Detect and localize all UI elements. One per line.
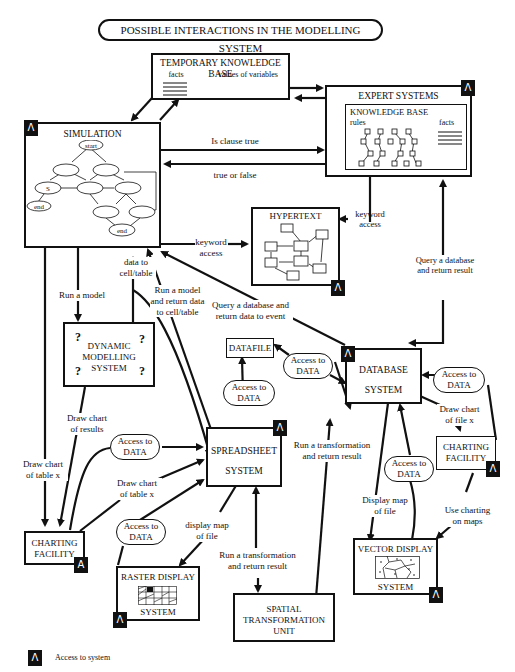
vector-display-title: VECTOR DISPLAY: [355, 544, 436, 555]
flow-end-2: end: [117, 227, 128, 235]
datafile-title: DATAFILE: [227, 343, 273, 354]
access-data-pill-db-right: Access toDATA: [433, 367, 485, 393]
vector-display-access-badge[interactable]: Λ: [429, 587, 443, 603]
simulation-flowchart-icon: start S end end: [26, 140, 159, 248]
facts-lines-icon: [438, 130, 464, 146]
facts-lines-icon: [163, 81, 189, 97]
simulation-title: SIMULATION: [26, 129, 159, 140]
expert-systems-title: EXPERT SYSTEMS: [327, 91, 470, 102]
vector-display-system-node: VECTOR DISPLAY SYSTEM: [353, 538, 438, 595]
flow-s: S: [46, 185, 50, 193]
edge-label-run-model-return: Run a model and return data to cell/tabl…: [150, 285, 205, 317]
edge-label-draw-chart-results: Draw chart of results: [62, 413, 112, 435]
access-data-pill-vector: Access toDATA: [384, 456, 434, 482]
access-data-pill-charting-ss: Access toDATA: [110, 434, 160, 460]
datafile-node: DATAFILE: [226, 338, 274, 358]
facts-label: facts: [439, 118, 454, 128]
edge-label-run-a-model: Run a model: [57, 290, 107, 301]
edge-label-run-transformation-db: Run a transformation and return result: [292, 440, 372, 462]
edge-label-true-or-false: true or false: [200, 170, 270, 181]
spreadsheet-access-badge[interactable]: Λ: [273, 420, 287, 436]
legend-label: Access to system: [55, 653, 110, 663]
dynamic-modelling-system-node: ? ? ? ? DYNAMIC MODELLING SYSTEM: [63, 322, 155, 387]
rules-network-icon: [356, 127, 426, 167]
edge-label-draw-chart-table-mid: Draw chart of table x: [112, 478, 162, 500]
edge-label-display-map-file-ss: display map of file: [182, 520, 232, 542]
hypertext-title: HYPERTEXT: [253, 211, 338, 222]
raster-display-system-node: RASTER DISPLAY SYSTEM: [116, 566, 200, 621]
flow-start: start: [85, 142, 97, 150]
raster-display-system: SYSTEM: [118, 607, 198, 618]
edge-label-data-to-cell: data to cell/table: [116, 257, 156, 279]
edge-label-is-clause-true: Is clause true: [200, 136, 270, 147]
knowledge-base-panel: KNOWLEDGE BASE rules facts: [345, 104, 467, 170]
database-label: DATABASE SYSTEM: [347, 360, 420, 400]
spatial-transformation-unit-node: SPATIAL TRANSFORMATION UNIT: [233, 593, 335, 642]
legend-access-icon: Λ: [28, 650, 42, 666]
edge-label-keyword-access-sim: keyword access: [193, 237, 229, 259]
edge-label-draw-chart-table-left: Draw chart of table x: [18, 459, 68, 481]
temporary-knowledge-base-node: TEMPORARY KNOWLEDGE BASE facts values of…: [151, 53, 290, 100]
raster-grid-icon: [138, 586, 178, 606]
temporary-kb-values: values of variables: [208, 70, 288, 80]
hypertext-access-badge[interactable]: Λ: [331, 280, 345, 296]
charting-left-access-badge[interactable]: A: [74, 557, 88, 573]
vector-map-icon: [375, 556, 420, 580]
flow-end-1: end: [34, 203, 45, 211]
edge-label-draw-chart-file: Draw chart of file x: [437, 404, 482, 426]
hypertext-network-icon: [261, 222, 331, 282]
dynamic-modelling-label: DYNAMIC MODELLING SYSTEM: [65, 341, 153, 373]
spreadsheet-label: SPREADSHEET SYSTEM: [208, 441, 280, 481]
access-data-pill-datafile-ss: Access toDATA: [223, 380, 275, 406]
edge-label-display-map-file-db: Display map of file: [360, 495, 410, 517]
edge-label-query-db-return-result: Query a database and return result: [410, 255, 480, 275]
hypertext-node: HYPERTEXT: [251, 207, 340, 286]
raster-display-title: RASTER DISPLAY: [118, 572, 198, 583]
simulation-access-badge[interactable]: Λ: [24, 120, 38, 136]
expert-systems-node: EXPERT SYSTEMS KNOWLEDGE BASE rules fact…: [325, 85, 472, 177]
access-data-pill-raster: Access toDATA: [116, 519, 166, 545]
spatial-transformation-label: SPATIAL TRANSFORMATION UNIT: [235, 604, 333, 636]
expert-systems-access-badge[interactable]: Λ: [461, 80, 475, 96]
edge-label-query-db-event: Query a database and return data to even…: [208, 300, 293, 322]
simulation-node: SIMULATION start S end end: [24, 122, 161, 248]
temporary-kb-facts: facts: [161, 70, 191, 80]
edge-label-use-charting-maps: Use charting on maps: [440, 505, 495, 527]
edge-label-keyword-access-expert: keyword access: [352, 209, 388, 229]
vector-display-system: SYSTEM: [355, 582, 436, 593]
raster-display-access-badge[interactable]: Λ: [113, 612, 127, 628]
database-system-node: DATABASE SYSTEM: [345, 348, 422, 404]
edge-label-run-transformation-ss: Run a transformation and return result: [215, 550, 300, 572]
diagram-title: POSSIBLE INTERACTIONS IN THE MODELLING S…: [98, 19, 383, 41]
knowledge-base-title: KNOWLEDGE BASE: [350, 107, 428, 117]
database-access-badge[interactable]: Λ: [341, 346, 355, 362]
charting-right-access-badge[interactable]: Λ: [486, 461, 500, 477]
spreadsheet-system-node: SPREADSHEET SYSTEM: [206, 427, 282, 487]
access-data-pill-datafile-db: Access toDATA: [283, 353, 333, 379]
